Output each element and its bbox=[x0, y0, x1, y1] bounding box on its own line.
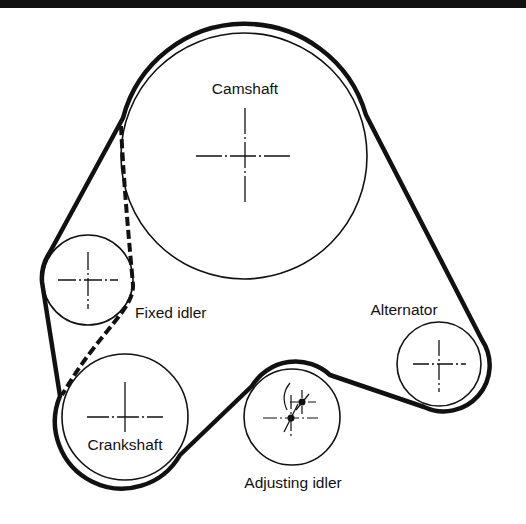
camshaft-label: Camshaft bbox=[212, 80, 279, 97]
adjusting-idler-pivot-dot bbox=[288, 415, 295, 422]
timing-belt-diagram: Camshaft Fixed idler Crankshaft bbox=[0, 0, 526, 524]
fixed-idler-center-mark bbox=[58, 252, 118, 309]
pulley-crankshaft: Crankshaft bbox=[62, 354, 188, 480]
pulley-adjusting-idler: Adjusting idler bbox=[244, 369, 342, 491]
adjusting-idler-bolt-dot bbox=[299, 399, 306, 406]
alternator-center-mark bbox=[413, 340, 466, 392]
adjusting-idler-center-mark bbox=[263, 383, 318, 437]
pulley-alternator: Alternator bbox=[370, 301, 481, 406]
alternator-label: Alternator bbox=[370, 301, 437, 318]
crankshaft-label: Crankshaft bbox=[88, 436, 164, 453]
fixed-idler-label: Fixed idler bbox=[135, 304, 207, 321]
pulley-camshaft: Camshaft bbox=[121, 33, 367, 279]
camshaft-center-mark bbox=[196, 108, 293, 204]
crankshaft-center-mark bbox=[87, 382, 163, 432]
adjusting-idler-label: Adjusting idler bbox=[244, 474, 341, 491]
